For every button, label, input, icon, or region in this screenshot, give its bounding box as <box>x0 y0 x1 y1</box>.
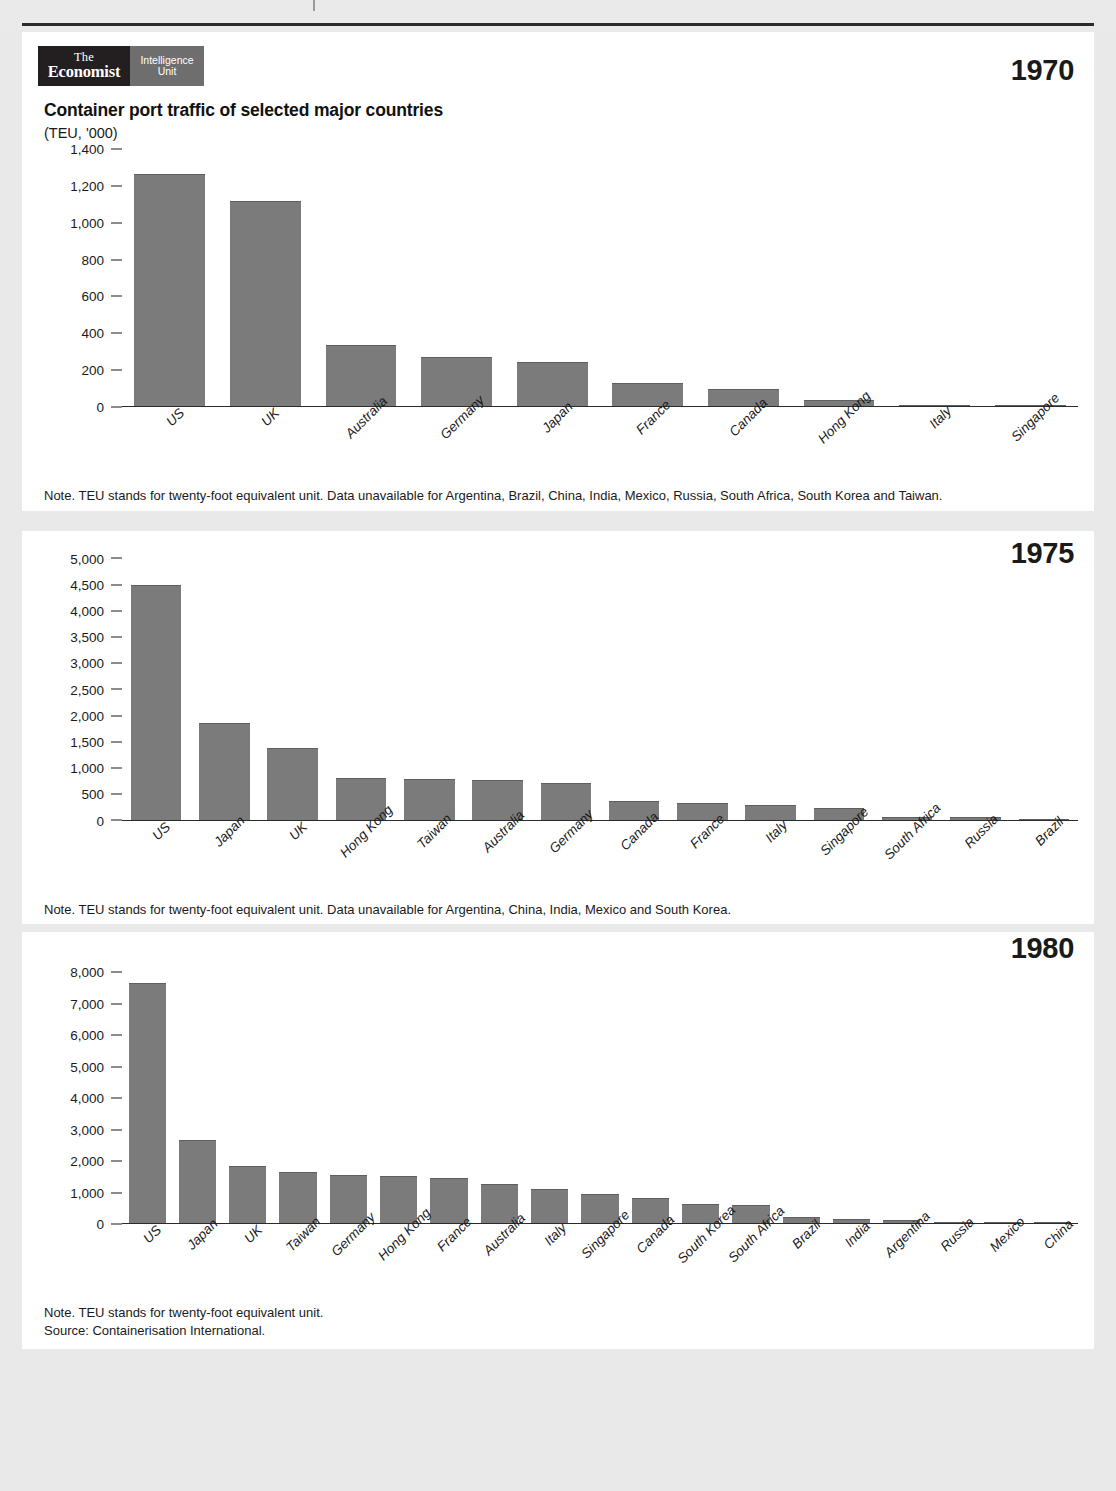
y-tick-label: 4,000 <box>38 1091 122 1106</box>
bar-slot[interactable] <box>625 972 675 1223</box>
x-tick-label: Italy <box>541 1220 569 1248</box>
x-label-slot: South Korea <box>675 1224 725 1298</box>
x-tick-label: UK <box>259 405 283 429</box>
bar-slot[interactable] <box>805 559 873 820</box>
bar-slot[interactable] <box>374 972 424 1223</box>
y-tick-dash <box>111 715 122 716</box>
bar-slot[interactable] <box>877 972 927 1223</box>
bar-slot[interactable] <box>1028 972 1078 1223</box>
bar-slot[interactable] <box>122 149 218 406</box>
top-tick-mark <box>313 0 315 11</box>
axis-area-1970: 02004006008001,0001,2001,400 <box>38 149 1078 407</box>
bar-slot[interactable] <box>873 559 941 820</box>
chart-plot-1970: 02004006008001,0001,2001,400 USUKAustral… <box>38 149 1078 481</box>
bar-uk[interactable] <box>229 1166 266 1223</box>
x-label-slot: South Africa <box>726 1224 776 1298</box>
y-tick-label: 3,000 <box>38 1122 122 1137</box>
x-label-slot: Japan <box>504 407 600 481</box>
logo-economist: Economist <box>48 64 120 81</box>
y-tick-dash <box>111 820 122 821</box>
bar-slot[interactable] <box>826 972 876 1223</box>
bar-slot[interactable] <box>726 972 776 1223</box>
bar-us[interactable] <box>134 174 205 406</box>
bar-japan[interactable] <box>179 1140 216 1223</box>
x-label-slot: UK <box>218 407 314 481</box>
x-label-slot: Argentina <box>877 1224 927 1298</box>
bar-slot[interactable] <box>122 559 190 820</box>
top-strip <box>0 0 1116 32</box>
bar-slot[interactable] <box>696 149 792 406</box>
chart-source-1980: Source: Containerisation International. <box>44 1322 1078 1340</box>
panel-gap-1 <box>22 511 1094 521</box>
intelligence-unit-logo: Intelligence Unit <box>130 46 204 86</box>
bar-slot[interactable] <box>463 559 531 820</box>
bar-italy[interactable] <box>899 405 970 406</box>
bar-italy[interactable] <box>531 1189 568 1223</box>
bar-slot[interactable] <box>668 559 736 820</box>
bar-japan[interactable] <box>199 723 250 820</box>
bar-slot[interactable] <box>122 972 172 1223</box>
y-tick-text: 2,500 <box>70 682 104 697</box>
bar-slot[interactable] <box>172 972 222 1223</box>
bar-slot[interactable] <box>791 149 887 406</box>
bar-slot[interactable] <box>223 972 273 1223</box>
y-tick-text: 0 <box>96 1217 104 1232</box>
bar-slot[interactable] <box>887 149 983 406</box>
y-tick-text: 1,500 <box>70 734 104 749</box>
bar-slot[interactable] <box>941 559 1009 820</box>
x-tick-label: UK <box>286 819 310 843</box>
bar-slot[interactable] <box>977 972 1027 1223</box>
bar-uk[interactable] <box>267 748 318 819</box>
bar-slot[interactable] <box>927 972 977 1223</box>
bar-slot[interactable] <box>424 972 474 1223</box>
bar-japan[interactable] <box>517 362 588 406</box>
y-tick-dash <box>111 663 122 664</box>
y-tick-label: 400 <box>38 326 122 341</box>
y-tick-text: 4,000 <box>70 603 104 618</box>
bar-slot[interactable] <box>600 559 668 820</box>
economist-eiu-logo: The Economist Intelligence Unit <box>38 46 204 86</box>
bar-australia[interactable] <box>326 345 397 406</box>
bar-uk[interactable] <box>230 201 301 406</box>
bar-slot[interactable] <box>409 149 505 406</box>
y-tick-text: 6,000 <box>70 1028 104 1043</box>
bar-france[interactable] <box>612 383 683 406</box>
bar-slot[interactable] <box>395 559 463 820</box>
bar-slot[interactable] <box>190 559 258 820</box>
bar-slot[interactable] <box>575 972 625 1223</box>
x-axis-1970: USUKAustraliaGermanyJapanFranceCanadaHon… <box>122 407 1078 481</box>
bar-slot[interactable] <box>532 559 600 820</box>
x-label-slot: Brazil <box>1010 821 1078 895</box>
chart-plot-1980: 01,0002,0003,0004,0005,0006,0007,0008,00… <box>38 972 1078 1298</box>
bar-slot[interactable] <box>313 149 409 406</box>
y-tick-dash <box>111 1224 122 1225</box>
bar-slot[interactable] <box>525 972 575 1223</box>
bar-slot[interactable] <box>776 972 826 1223</box>
x-tick-label: India <box>841 1219 872 1250</box>
chart-plot-1975: 05001,0001,5002,0002,5003,0003,5004,0004… <box>38 559 1078 895</box>
bar-italy[interactable] <box>745 805 796 820</box>
y-tick-dash <box>111 222 122 223</box>
bar-slot[interactable] <box>737 559 805 820</box>
bar-slot[interactable] <box>1010 559 1078 820</box>
x-tick-label: US <box>163 405 187 429</box>
x-label-slot: Italy <box>887 407 983 481</box>
bar-slot[interactable] <box>218 149 314 406</box>
y-tick-label: 1,000 <box>38 215 122 230</box>
bar-us[interactable] <box>129 983 166 1223</box>
bar-us[interactable] <box>131 585 182 820</box>
y-tick-label: 0 <box>38 813 122 828</box>
bar-slot[interactable] <box>675 972 725 1223</box>
bar-slot[interactable] <box>273 972 323 1223</box>
bar-slot[interactable] <box>323 972 373 1223</box>
bar-slot[interactable] <box>474 972 524 1223</box>
top-divider-rule <box>22 23 1094 26</box>
bar-slot[interactable] <box>504 149 600 406</box>
bar-slot[interactable] <box>327 559 395 820</box>
y-tick-text: 2,000 <box>70 1154 104 1169</box>
the-economist-logo: The Economist <box>38 46 130 86</box>
bar-slot[interactable] <box>982 149 1078 406</box>
bar-slot[interactable] <box>259 559 327 820</box>
y-tick-label: 500 <box>38 787 122 802</box>
bar-slot[interactable] <box>600 149 696 406</box>
